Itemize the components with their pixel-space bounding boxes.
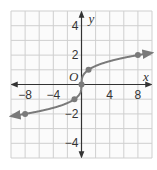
- x-axis-label: x: [142, 69, 149, 84]
- data-point: [71, 96, 77, 102]
- data-point: [22, 111, 28, 117]
- x-tick-label: −8: [18, 88, 32, 102]
- x-tick-label: −4: [46, 88, 60, 102]
- data-point: [79, 82, 85, 88]
- y-tick-label: −4: [65, 136, 79, 150]
- data-point: [86, 67, 92, 73]
- origin-label: O: [69, 69, 79, 84]
- y-tick-label: 4: [72, 19, 79, 33]
- data-point: [135, 52, 141, 58]
- x-tick-label: 4: [106, 88, 113, 102]
- cube-root-graph: −8−44842−2−4xyO: [0, 0, 157, 170]
- y-tick-label: 2: [72, 48, 79, 62]
- y-axis-label: y: [87, 11, 95, 26]
- x-tick-label: 8: [135, 88, 142, 102]
- y-tick-label: −2: [65, 107, 79, 121]
